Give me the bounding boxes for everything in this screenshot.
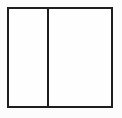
right-panel <box>49 9 111 106</box>
left-panel <box>9 9 47 106</box>
outer-rectangle <box>7 7 113 108</box>
two-panel-rectangle-diagram <box>0 0 122 118</box>
